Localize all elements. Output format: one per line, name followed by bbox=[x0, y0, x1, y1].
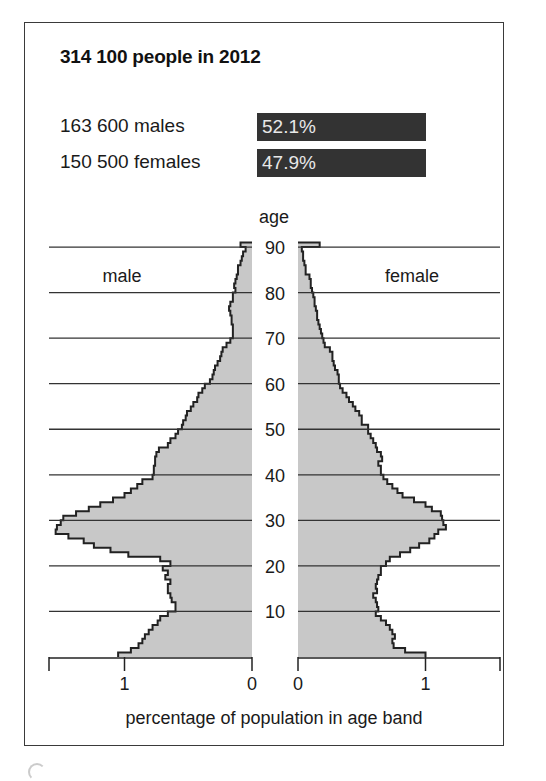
x-tick-label: 0 bbox=[247, 674, 257, 694]
age-tick-label: 40 bbox=[265, 466, 285, 486]
cropped-glyph bbox=[28, 763, 46, 781]
x-axes bbox=[49, 657, 500, 671]
age-tick-label: 50 bbox=[265, 420, 285, 440]
x-axis-label: percentage of population in age band bbox=[125, 708, 422, 728]
x-tick-label: 1 bbox=[119, 674, 129, 694]
age-tick-label: 90 bbox=[265, 238, 285, 258]
age-tick-label: 60 bbox=[265, 375, 285, 395]
x-tick-labels: 1001 bbox=[119, 674, 430, 694]
y-axis-label: age bbox=[259, 207, 289, 227]
age-tick-label: 70 bbox=[265, 329, 285, 349]
age-tick-labels: 102030405060708090 bbox=[265, 238, 285, 622]
age-tick-label: 20 bbox=[265, 557, 285, 577]
pyramid-bars bbox=[56, 242, 446, 657]
female-side-label: female bbox=[385, 266, 439, 286]
age-tick-label: 10 bbox=[265, 602, 285, 622]
male-side-label: male bbox=[102, 266, 141, 286]
x-tick-label: 0 bbox=[293, 674, 303, 694]
male-bars-fill bbox=[56, 242, 252, 657]
age-tick-label: 30 bbox=[265, 511, 285, 531]
age-tick-label: 80 bbox=[265, 284, 285, 304]
x-tick-label: 1 bbox=[420, 674, 430, 694]
female-bars-fill bbox=[298, 242, 446, 657]
